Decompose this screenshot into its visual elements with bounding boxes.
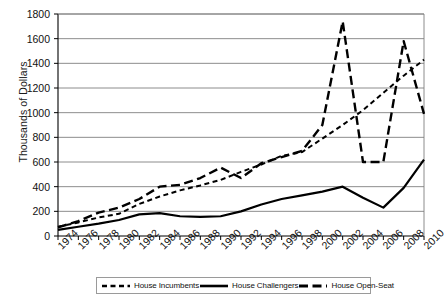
legend-label: House Incumbents (134, 281, 199, 290)
legend-item: House Challengers (199, 281, 298, 290)
legend-label: House Open-Seat (331, 281, 394, 290)
legend-swatch (101, 282, 131, 290)
series-line (58, 21, 424, 227)
chart-legend: House IncumbentsHouse ChallengersHouse O… (96, 277, 371, 294)
legend-item: House Open-Seat (298, 281, 394, 290)
legend-item: House Incumbents (101, 281, 199, 290)
legend-label: House Challengers (232, 281, 298, 290)
legend-swatch (298, 282, 328, 290)
series-line (58, 160, 424, 230)
legend-swatch (199, 282, 229, 290)
